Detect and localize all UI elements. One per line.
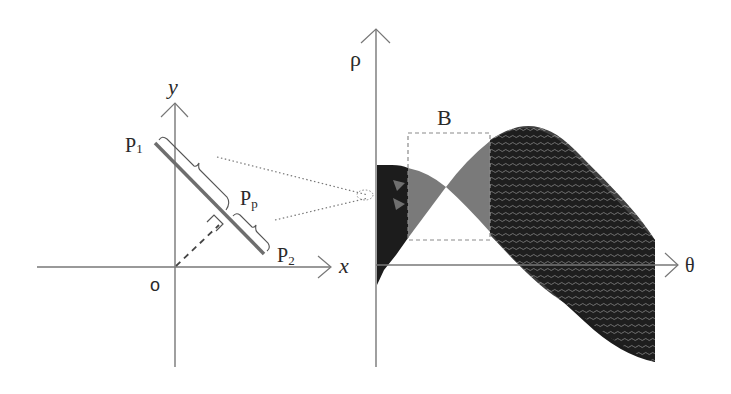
p2-label: P2 xyxy=(277,244,295,268)
y-axis-label: y xyxy=(166,74,178,99)
projection-line-lower xyxy=(275,198,368,220)
theta-axis-label: θ xyxy=(685,254,695,276)
brace-pp-p2 xyxy=(233,214,269,251)
box-b-label: B xyxy=(437,105,452,130)
origin-label: o xyxy=(150,275,160,295)
pp-label: Pp xyxy=(240,187,258,211)
hough-space-panel: B ρ θ xyxy=(350,29,695,367)
right-angle-marker xyxy=(207,215,223,231)
gray-region-lower-right xyxy=(446,141,490,232)
rho-axis-label: ρ xyxy=(350,46,361,71)
x-axis-label: x xyxy=(338,253,349,278)
wavy-texture-region xyxy=(485,115,660,365)
brace-p1-pp xyxy=(159,137,229,210)
image-space-panel: x y o P1 Pp P2 xyxy=(37,74,368,367)
normal-distance-rho xyxy=(176,225,219,266)
gray-region-upper-left xyxy=(408,168,446,238)
hough-transform-diagram: x y o P1 Pp P2 xyxy=(0,0,731,394)
p1-label: P1 xyxy=(125,134,143,156)
